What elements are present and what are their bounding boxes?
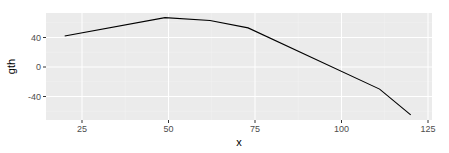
y-tick-label: -40 [28,92,41,102]
y-axis: -40040 [28,33,46,102]
x-tick-label: 50 [163,124,173,134]
x-axis: 255075100125 [77,120,436,134]
y-tick-label: 0 [36,62,41,72]
y-axis-title: gth [5,59,17,74]
x-tick-label: 125 [420,124,435,134]
x-tick-label: 25 [77,124,87,134]
x-tick-label: 75 [250,124,260,134]
x-axis-title: x [236,136,242,148]
x-tick-label: 100 [334,124,349,134]
y-tick-label: 40 [31,33,41,43]
line-chart: 255075100125 -40040 x gth [0,0,449,153]
